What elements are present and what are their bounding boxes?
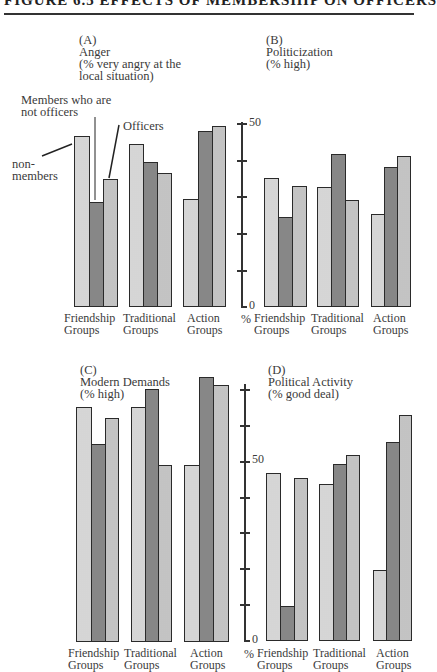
panel-d-tick-60 <box>240 425 250 427</box>
bar-a-traditional-nonmembers <box>129 144 144 307</box>
panel-b-tick-40 <box>237 160 247 162</box>
bar-b-traditional-officers <box>345 200 359 307</box>
bar-b-traditional-nonmembers <box>317 187 332 307</box>
bar-c-friendship-nonmembers <box>76 407 92 642</box>
panel-b-xlabel-friendship: Friendship Groups <box>254 312 305 336</box>
bar-c-friendship-members <box>91 444 106 642</box>
panel-d-label-percent: % <box>244 647 254 662</box>
panel-c-xlabel-action: Action Groups <box>190 647 225 671</box>
bar-a-action-nonmembers <box>183 199 199 307</box>
bar-a-friendship-members <box>89 202 104 307</box>
xlabel-line2: Groups <box>376 659 411 671</box>
panel-d-label-50: 50 <box>252 452 264 467</box>
panel-b-label-50: 50 <box>249 115 261 130</box>
bar-b-friendship-nonmembers <box>264 178 279 307</box>
panel-b-tick-10 <box>237 270 247 272</box>
xlabel-line2: Groups <box>190 659 225 671</box>
panel-d-xlabel-friendship: Friendship Groups <box>257 647 308 671</box>
panel-b-xlabel-traditional: Traditional Groups <box>311 312 364 336</box>
panel-d-label-0: 0 <box>252 632 258 647</box>
panel-d-xlabel-action: Action Groups <box>376 647 411 671</box>
bar-d-traditional-nonmembers <box>319 484 334 641</box>
panel-a-xlabel-action: Action Groups <box>187 312 222 336</box>
xlabel-line2: Groups <box>373 324 408 336</box>
panel-b-xlabel-action: Action Groups <box>373 312 408 336</box>
bar-d-traditional-members <box>333 464 347 641</box>
bar-a-friendship-nonmembers <box>74 136 90 307</box>
bar-d-friendship-nonmembers <box>266 473 281 641</box>
panel-d-tick-30 <box>240 532 250 534</box>
panel-b-label-percent: % <box>241 312 251 327</box>
bar-a-friendship-officers <box>103 179 118 307</box>
bar-a-action-officers <box>212 126 226 307</box>
bar-c-traditional-nonmembers <box>131 407 146 642</box>
xlabel-line2: Groups <box>68 659 119 671</box>
xlabel-line2: Groups <box>254 324 305 336</box>
panel-b-tick-20 <box>237 233 247 235</box>
panel-d-tick-10 <box>240 604 250 606</box>
bar-d-action-nonmembers <box>373 570 387 641</box>
bar-d-friendship-members <box>280 606 295 641</box>
bar-a-traditional-members <box>143 162 158 307</box>
xlabel-line2: Groups <box>64 324 115 336</box>
panel-c-xlabel-friendship: Friendship Groups <box>68 647 119 671</box>
bar-c-friendship-officers <box>105 418 119 642</box>
xlabel-line2: Groups <box>187 324 222 336</box>
bar-c-traditional-officers <box>158 465 172 642</box>
panel-d-xlabel-traditional: Traditional Groups <box>313 647 366 671</box>
panel-d-tick-0 <box>244 640 250 642</box>
bar-a-action-members <box>198 131 213 307</box>
panel-d-tick-50 <box>240 461 250 463</box>
bar-c-traditional-members <box>145 389 159 642</box>
panel-b-tick-0 <box>241 306 247 308</box>
bar-a-traditional-officers <box>157 173 172 307</box>
panel-a-xlabel-traditional: Traditional Groups <box>123 312 176 336</box>
bar-b-action-nonmembers <box>371 214 385 307</box>
panel-b-tick-30 <box>237 196 247 198</box>
panel-d-tick-40 <box>240 497 250 499</box>
bar-c-action-members <box>199 377 214 642</box>
bar-d-traditional-officers <box>346 455 360 641</box>
bar-b-friendship-officers <box>292 186 307 307</box>
bar-b-friendship-members <box>278 217 293 307</box>
xlabel-line2: Groups <box>311 324 364 336</box>
panel-c-xlabel-traditional: Traditional Groups <box>124 647 177 671</box>
xlabel-line2: Groups <box>313 659 366 671</box>
panel-a-xlabel-friendship: Friendship Groups <box>64 312 115 336</box>
bar-c-action-officers <box>213 385 229 642</box>
panel-b-tick-50 <box>237 123 247 125</box>
bar-b-traditional-members <box>331 154 346 307</box>
bar-d-friendship-officers <box>294 478 308 641</box>
bar-d-action-officers <box>399 415 412 641</box>
xlabel-line2: Groups <box>123 324 176 336</box>
bar-d-action-members <box>386 442 400 641</box>
panel-d-tick-70 <box>240 389 250 391</box>
panel-b-y-axis <box>241 122 243 307</box>
xlabel-line2: Groups <box>124 659 177 671</box>
xlabel-line2: Groups <box>257 659 308 671</box>
panel-d-tick-20 <box>240 568 250 570</box>
bar-b-action-members <box>384 167 398 307</box>
bar-b-action-officers <box>397 156 411 307</box>
bar-c-action-nonmembers <box>184 465 200 642</box>
